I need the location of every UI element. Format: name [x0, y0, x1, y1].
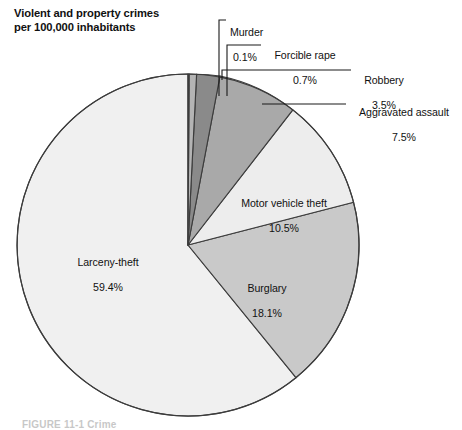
callout-robbery-name: Robbery: [353, 74, 415, 87]
slice-label-burglary: Burglary 18.1%: [229, 269, 305, 332]
callout-forcible-rape: Forcible rape 0.7%: [263, 36, 347, 99]
slice-label-larceny-theft-value: 59.4%: [58, 281, 158, 294]
callout-aggravated-assault: Aggravated assault 7.5%: [348, 93, 460, 156]
slice-label-burglary-value: 18.1%: [229, 307, 305, 320]
callout-forcible-rape-value: 0.7%: [263, 74, 347, 87]
callout-murder-value: 0.1%: [230, 51, 263, 64]
callout-aggravated-assault-name: Aggravated assault: [348, 106, 460, 119]
figure-root: Violent and property crimes per 100,000 …: [0, 0, 462, 430]
callout-aggravated-assault-value: 7.5%: [348, 131, 460, 144]
callout-forcible-rape-name: Forcible rape: [263, 49, 347, 62]
slice-label-burglary-name: Burglary: [229, 282, 305, 295]
slice-label-motor-vehicle-theft-value: 10.5%: [228, 222, 340, 235]
slice-label-larceny-theft-name: Larceny-theft: [58, 256, 158, 269]
callout-murder-name: Murder: [230, 26, 263, 39]
slice-label-motor-vehicle-theft: Motor vehicle theft 10.5%: [228, 184, 340, 247]
slice-label-larceny-theft: Larceny-theft 59.4%: [58, 243, 158, 306]
callout-murder: Murder 0.1%: [230, 13, 263, 76]
figure-caption: FIGURE 11-1 Crime: [22, 419, 117, 430]
slice-label-motor-vehicle-theft-name: Motor vehicle theft: [228, 197, 340, 210]
